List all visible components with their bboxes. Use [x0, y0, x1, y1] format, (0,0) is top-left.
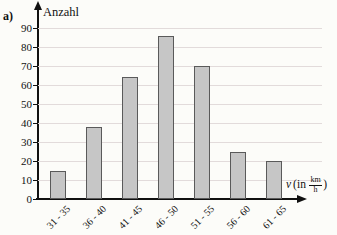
x-tick-label-46-50: 46 - 50 [152, 203, 180, 231]
y-tick-label-80: 80 [0, 41, 32, 54]
gridline-70 [38, 66, 323, 67]
y-tick-label-0: 0 [0, 193, 32, 206]
y-tick-mark-50 [33, 104, 38, 105]
y-tick-label-50: 50 [0, 98, 32, 111]
bar-31-35 [50, 171, 66, 200]
gridline-80 [38, 47, 323, 48]
y-tick-label-70: 70 [0, 60, 32, 73]
y-axis-title: Anzahl [43, 5, 79, 20]
x-tick-label-31-35: 31 - 35 [44, 203, 72, 231]
y-tick-mark-30 [33, 142, 38, 143]
y-tick-mark-70 [33, 66, 38, 67]
x-axis-variable: v [286, 178, 291, 190]
x-tick-label-61-65: 61 - 65 [260, 203, 288, 231]
fraction-denominator: h [309, 186, 322, 195]
x-axis-title-suffix: ) [323, 178, 327, 190]
y-tick-mark-40 [33, 123, 38, 124]
bar-56-60 [230, 152, 246, 200]
bar-41-45 [122, 77, 138, 199]
y-tick-mark-80 [33, 47, 38, 48]
histogram-figure: a) Anzahl 010203040506070809031 - 3536 -… [0, 0, 337, 235]
bar-51-55 [194, 66, 210, 199]
bar-61-65 [266, 161, 282, 199]
y-tick-label-30: 30 [0, 136, 32, 149]
y-tick-label-40: 40 [0, 117, 32, 130]
y-tick-mark-0 [33, 199, 38, 200]
y-tick-mark-20 [33, 161, 38, 162]
x-tick-label-51-55: 51 - 55 [188, 203, 216, 231]
y-tick-mark-90 [33, 28, 38, 29]
x-tick-label-56-60: 56 - 60 [224, 203, 252, 231]
x-axis-title: v(inkmh) [286, 176, 327, 195]
y-axis-arrow [34, 1, 42, 10]
bar-36-40 [86, 127, 102, 199]
x-tick-label-36-40: 36 - 40 [80, 203, 108, 231]
y-tick-label-20: 20 [0, 155, 32, 168]
km-per-h-fraction: kmh [309, 176, 322, 195]
y-tick-label-10: 10 [0, 174, 32, 187]
gridline-90 [38, 28, 323, 29]
gridline-50 [38, 104, 323, 105]
x-tick-label-41-45: 41 - 45 [116, 203, 144, 231]
y-tick-mark-60 [33, 85, 38, 86]
gridline-40 [38, 123, 323, 124]
y-tick-mark-10 [33, 180, 38, 181]
bar-46-50 [158, 36, 174, 199]
y-tick-label-90: 90 [0, 22, 32, 35]
gridline-30 [38, 142, 323, 143]
gridline-60 [38, 85, 323, 86]
x-axis-title-prefix: (in [293, 178, 306, 190]
y-tick-label-60: 60 [0, 79, 32, 92]
x-axis-arrow [297, 195, 307, 203]
